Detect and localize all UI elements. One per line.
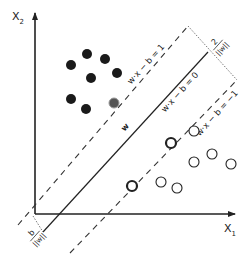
filled-data-point	[100, 54, 110, 64]
open-data-point	[189, 157, 199, 167]
filled-data-point	[112, 68, 122, 78]
open-data-point	[189, 126, 199, 136]
upper-margin-label: w·x − b = 1	[125, 42, 166, 86]
offset-numerator: b	[27, 228, 37, 238]
normal-vector-label: w	[119, 121, 131, 133]
open-support-vector	[127, 181, 137, 191]
offset-bracket	[33, 216, 43, 232]
filled-data-point	[86, 73, 96, 83]
hyperplane-label: w·x − b = 0	[159, 70, 200, 114]
open-data-point	[207, 149, 217, 159]
filled-data-point	[66, 94, 76, 104]
class-filled-points	[66, 49, 122, 114]
margin-bracket	[188, 26, 237, 80]
class-open-points	[127, 126, 236, 193]
lower-margin-line	[70, 80, 237, 253]
filled-support-vector	[109, 98, 119, 108]
filled-data-point	[66, 60, 76, 70]
open-support-vector	[166, 138, 176, 148]
open-data-point	[172, 183, 182, 193]
open-data-point	[226, 159, 236, 169]
y-axis-label: X2	[12, 10, 24, 26]
svm-diagram: X2 X1 w·x − b = 1 w·x − b = 0 w·x − b = …	[0, 0, 249, 267]
margin-width-numerator: 2	[210, 37, 220, 47]
x-axis-label: X1	[224, 222, 236, 238]
filled-data-point	[82, 49, 92, 59]
open-data-point	[156, 177, 166, 187]
filled-data-point	[81, 104, 91, 114]
lower-margin-label: w·x − b = −1	[194, 88, 240, 138]
